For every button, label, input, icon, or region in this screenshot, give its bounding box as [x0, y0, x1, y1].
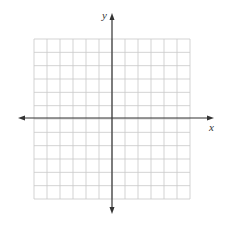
x-axis-label: x — [208, 121, 214, 133]
coordinate-plane: x y — [0, 0, 229, 227]
x-axis-left-arrow-icon — [18, 116, 25, 121]
axes — [18, 13, 214, 214]
x-axis-right-arrow-icon — [207, 116, 214, 121]
y-axis-down-arrow-icon — [110, 207, 115, 214]
y-axis-label: y — [101, 9, 107, 21]
y-axis-up-arrow-icon — [110, 13, 115, 20]
